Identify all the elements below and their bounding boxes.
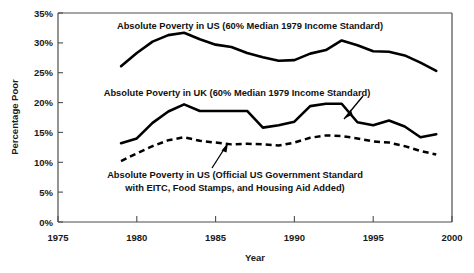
y-tick-label-25: 25% <box>34 67 54 78</box>
annotation-us-official-line2: with EITC, Food Stamps, and Housing Aid … <box>124 183 344 193</box>
annotation-us-official-line1: Absolute Poverty in US (Official US Gove… <box>107 170 363 180</box>
y-tick-label-15: 15% <box>34 127 54 138</box>
y-tick-label-20: 20% <box>34 97 54 108</box>
series-line-uk-median <box>121 104 436 143</box>
x-tick-label-1980: 1980 <box>126 232 147 243</box>
y-tick-label-0: 0% <box>39 217 53 228</box>
y-tick-label-10: 10% <box>34 157 54 168</box>
y-axis-tick-labels: 35% 30% 25% 20% 15% 10% 5% 0% <box>34 8 54 228</box>
chart-canvas: 35% 30% 25% 20% 15% 10% 5% 0% Percentage… <box>0 0 474 273</box>
y-axis-title: Percentage Poor <box>9 79 20 155</box>
series-line-us-median <box>121 33 436 71</box>
series-line-us-official <box>121 135 436 161</box>
x-tick-label-1990: 1990 <box>284 232 305 243</box>
y-tick-label-30: 30% <box>34 37 54 48</box>
annotation-uk-median: Absolute Poverty in UK (60% Median 1979 … <box>104 88 371 98</box>
y-tick-label-5: 5% <box>39 187 53 198</box>
x-tick-label-1975: 1975 <box>47 232 69 243</box>
annotation-us-median: Absolute Poverty in US (60% Median 1979 … <box>117 21 383 31</box>
x-axis-tick-labels: 1975 1980 1985 1990 1995 2000 <box>47 232 462 243</box>
leader-arrows <box>212 96 363 168</box>
leader-arrow-uk-median <box>344 96 363 119</box>
x-tick-label-1995: 1995 <box>363 232 385 243</box>
x-axis-ticks <box>58 216 452 222</box>
y-tick-label-35: 35% <box>34 8 54 19</box>
leader-arrow-us-official <box>212 143 228 168</box>
x-tick-label-2000: 2000 <box>441 232 462 243</box>
poverty-line-chart: 35% 30% 25% 20% 15% 10% 5% 0% Percentage… <box>0 0 474 273</box>
x-tick-label-1985: 1985 <box>205 232 227 243</box>
y-axis-ticks <box>58 13 63 222</box>
x-axis-title: Year <box>245 252 265 263</box>
